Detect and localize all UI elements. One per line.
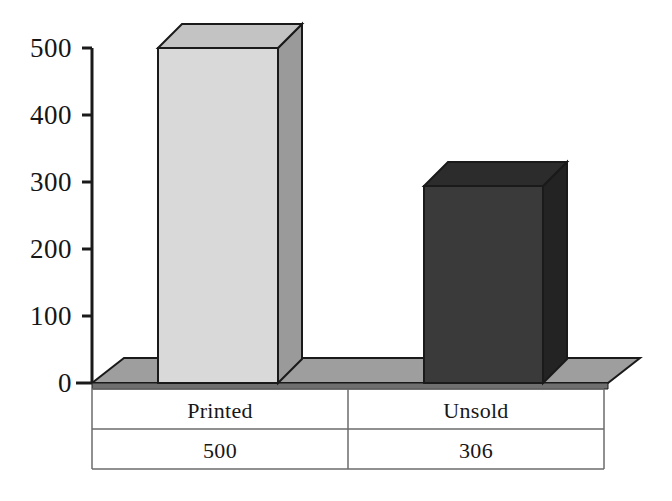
bar-printed [158,24,302,383]
bar-unsold [424,162,567,383]
y-axis-label-300: 300 [0,169,72,196]
y-axis-label-400: 400 [0,102,72,129]
bar-unsold-top-face [424,162,567,186]
bar-printed-top-face [158,24,302,48]
y-axis [76,48,92,383]
table-cell-value-unsold: 306 [348,440,604,462]
bar-unsold-side-face [543,162,567,383]
y-axis-label-0: 0 [0,370,72,397]
bar-printed-side-face [278,24,302,383]
chart-canvas [0,0,672,501]
y-axis-label-100: 100 [0,303,72,330]
bar-unsold-front-face [424,186,543,383]
y-axis-label-500: 500 [0,35,72,62]
table-cell-value-printed: 500 [92,440,348,462]
table-cell-category-unsold: Unsold [348,400,604,422]
bar-chart-figure: 500 400 300 200 100 0 Printed Unsold 500… [0,0,672,501]
y-axis-label-200: 200 [0,236,72,263]
table-cell-category-printed: Printed [92,400,348,422]
bar-printed-front-face [158,48,278,383]
